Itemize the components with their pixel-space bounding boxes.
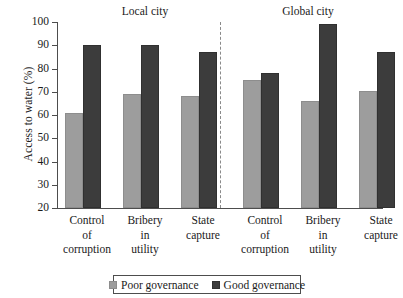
y-axis-tick-label: 90: [38, 37, 50, 52]
panel-title-local-city: Local city: [85, 5, 205, 17]
chart-legend: Poor governance Good governance: [113, 275, 301, 294]
y-axis-tick-label: 80: [38, 61, 50, 76]
plot-area: [57, 22, 382, 208]
y-axis-tick-label: 50: [38, 130, 50, 145]
bar-good-governance-1: [83, 45, 101, 208]
y-axis-tick-90: 90: [0, 45, 57, 46]
bar-poor-governance-1: [65, 113, 83, 208]
bar-poor-governance-3: [181, 96, 199, 208]
y-axis-tick-60: 60: [0, 115, 57, 116]
legend-item-good-governance: Good governance: [212, 279, 305, 291]
bar-good-governance-5: [319, 24, 337, 208]
panel-title-global-city: Global city: [248, 5, 368, 17]
y-axis-tick-70: 70: [0, 92, 57, 93]
x-axis-label-line: State: [345, 213, 403, 228]
y-axis-tick-label: 20: [38, 200, 50, 215]
bar-good-governance-4: [261, 73, 279, 208]
y-axis-tick-mark: [52, 208, 57, 209]
y-axis-tick-label: 60: [38, 107, 50, 122]
y-axis-tick-20: 20: [0, 208, 57, 209]
bar-good-governance-3: [199, 52, 217, 208]
y-axis-title: Access to water (%): [22, 24, 34, 204]
legend-label-poor-governance: Poor governance: [121, 279, 199, 291]
x-axis-label-line: utility: [109, 242, 181, 257]
legend-item-poor-governance: Poor governance: [109, 279, 199, 291]
y-axis-tick-80: 80: [0, 69, 57, 70]
y-axis-tick-30: 30: [0, 185, 57, 186]
legend-swatch-poor-governance-icon: [109, 281, 117, 289]
bar-good-governance-6: [377, 52, 395, 208]
y-axis-tick-100: 100: [0, 22, 57, 23]
y-axis-tick-label: 70: [38, 84, 50, 99]
bar-poor-governance-5: [301, 101, 319, 208]
legend-label-good-governance: Good governance: [224, 279, 305, 291]
legend-swatch-good-governance-icon: [212, 281, 220, 289]
x-axis-line: [57, 208, 383, 209]
bar-poor-governance-4: [243, 80, 261, 208]
y-axis-tick-label: 100: [32, 14, 49, 29]
x-axis-label-6: Statecapture: [345, 213, 403, 242]
y-axis-tick-40: 40: [0, 162, 57, 163]
y-axis-tick-label: 30: [38, 177, 50, 192]
y-axis-tick-label: 40: [38, 154, 50, 169]
x-axis-label-line: capture: [345, 228, 403, 243]
bar-good-governance-2: [141, 45, 159, 208]
y-axis-tick-50: 50: [0, 138, 57, 139]
bar-poor-governance-6: [359, 91, 377, 208]
bar-poor-governance-2: [123, 94, 141, 208]
x-axis-label-line: utility: [287, 242, 359, 257]
